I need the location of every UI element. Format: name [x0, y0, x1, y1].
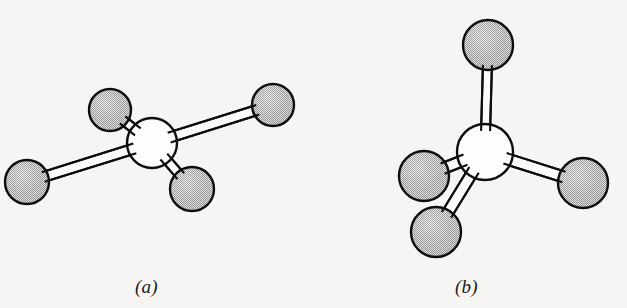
molecular-figure-canvas: [0, 0, 627, 308]
central-atom-a: [127, 118, 177, 168]
ligand-atom-b-top: [463, 20, 513, 70]
ligand-atom-a-upper-left-shading: [90, 90, 130, 130]
ligand-atom-a-left: [5, 160, 49, 204]
ligand-atom-a-upper-left: [89, 89, 131, 131]
figure-page: (a) (b): [0, 0, 627, 308]
central-atom-a-body: [127, 118, 177, 168]
ligand-atom-b-left: [399, 151, 449, 201]
ligand-atom-b-top-shading: [464, 21, 512, 69]
ligand-atom-a-right-shading: [253, 85, 293, 125]
panel-caption-a: (a): [135, 277, 158, 296]
ligand-atom-b-right-shading: [559, 159, 607, 207]
paper-background: [0, 0, 627, 308]
ligand-atom-a-right: [252, 84, 294, 126]
ligand-atom-b-left-shading: [400, 152, 448, 200]
ligand-atom-a-left-shading: [6, 161, 48, 203]
ligand-atom-b-right: [558, 158, 608, 208]
panel-caption-b: (b): [455, 277, 478, 296]
ligand-atom-a-bottom-shading: [171, 168, 213, 210]
ligand-atom-a-bottom: [170, 167, 214, 211]
